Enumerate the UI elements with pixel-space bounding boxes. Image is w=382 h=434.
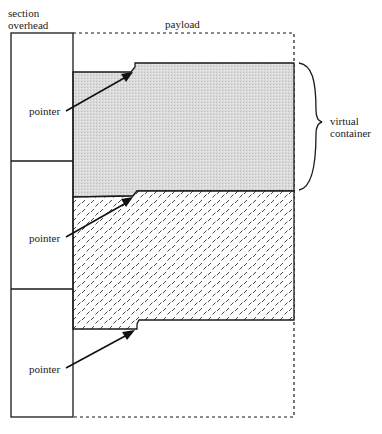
section-overhead-label-line1: section	[8, 7, 48, 19]
pointer-arrow-3	[66, 330, 135, 368]
virtual-container-area	[73, 63, 294, 197]
pointer-label-1: pointer	[29, 105, 60, 117]
virtual-container-label-line2: container	[330, 127, 371, 139]
next-virtual-container-area	[73, 191, 294, 329]
section-overhead-column	[11, 33, 73, 417]
pointer-label-3: pointer	[29, 363, 60, 375]
section-overhead-label-line2: overhead	[8, 19, 48, 31]
virtual-container-label-line1: virtual	[330, 115, 371, 127]
section-overhead-label: section overhead	[8, 7, 48, 31]
virtual-container-label: virtual container	[330, 115, 371, 139]
payload-label: payload	[165, 18, 200, 30]
pointer-label-2: pointer	[29, 232, 60, 244]
virtual-container-brace	[299, 63, 322, 190]
